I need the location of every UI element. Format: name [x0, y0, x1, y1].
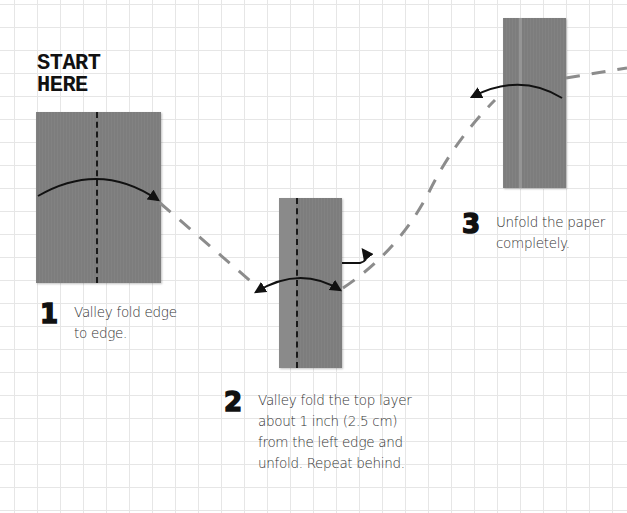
step2-text-line: unfold. Repeat behind.: [258, 453, 411, 474]
step2-text-line: from the left edge and: [258, 432, 411, 453]
step2-text-line: about 1 inch (2.5 cm): [258, 411, 411, 432]
step2-light-strip: [279, 198, 296, 368]
step1-paper: [36, 112, 161, 283]
start-here-line1: START: [37, 53, 101, 75]
step2-text-line: Valley fold the top layer: [258, 390, 411, 411]
step2-paper: [279, 198, 342, 368]
step1-instruction: 1 Valley fold edge to edge.: [40, 302, 177, 344]
step3-instruction: 3 Unfold the paper completely.: [462, 212, 605, 254]
step1-crease-line: [96, 112, 98, 283]
step2-number: 2: [224, 390, 250, 414]
step3-text-line: completely.: [496, 233, 605, 254]
step3-text-line: Unfold the paper: [496, 212, 605, 233]
step2-instruction: 2 Valley fold the top layer about 1 inch…: [224, 390, 411, 474]
start-here-line2: HERE: [37, 75, 101, 97]
step3-paper: [503, 18, 566, 188]
step3-light-strip: [519, 18, 522, 188]
step1-text-line: to edge.: [74, 323, 177, 344]
repeat-behind-arrow-icon: [342, 250, 366, 263]
step1-number: 1: [40, 302, 66, 326]
start-here-label: START HERE: [37, 53, 101, 97]
step1-text-line: Valley fold edge: [74, 302, 177, 323]
step3-number: 3: [462, 212, 488, 236]
step2-crease-line: [296, 198, 298, 368]
